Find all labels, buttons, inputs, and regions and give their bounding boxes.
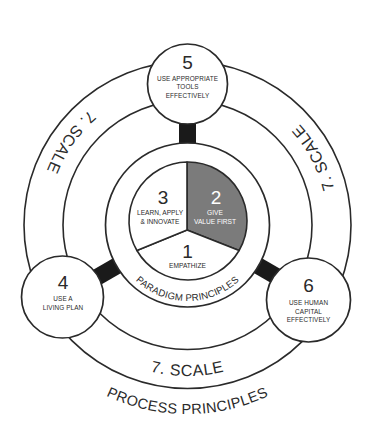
process-node-6[interactable]: 6 USE HUMAN CAPITAL EFFECTIVELY [267,258,351,342]
node-4-line-2: LIVING PLAN [43,304,84,311]
segment-1-number: 1 [182,241,193,262]
segment-2-line-2: VALUE FIRST [194,218,236,225]
node-5-line-2: TOOLS [176,83,198,90]
node-6-line-1: USE HUMAN [289,299,329,306]
scale-label-left-text: 7. SCALE [44,108,99,176]
node-4-line-1: USE A [53,295,73,302]
node-5-number: 5 [182,52,193,73]
scale-label-left: 7. SCALE [44,108,99,176]
segment-3-line-2: & INNOVATE [141,218,181,225]
diagram-svg: 7. SCALE 7. SCALE 7. SCALE PROCESS PRINC… [0,0,371,437]
segment-2-line-1: GIVE [207,209,223,216]
segment-3-line-1: LEARN, APPLY [137,209,184,216]
scale-label-bottom: 7. SCALE [150,358,226,379]
segment-2-number: 2 [211,187,222,208]
node-5-line-3: EFFECTIVELY [166,92,210,99]
principles-diagram: 7. SCALE 7. SCALE 7. SCALE PROCESS PRINC… [0,0,371,437]
process-node-4[interactable]: 4 USE A LIVING PLAN [22,256,104,338]
scale-label-right-text: 7. SCALE [289,121,338,192]
scale-label-right: 7. SCALE [289,121,338,192]
node-5-line-1: USE APPROPRIATE [157,75,218,82]
node-6-line-3: EFFECTIVELY [287,316,331,323]
node-4-number: 4 [58,272,69,293]
node-6-number: 6 [303,275,314,296]
segment-3-number: 3 [158,187,169,208]
node-6-line-2: CAPITAL [295,308,322,315]
process-node-5[interactable]: 5 USE APPROPRIATE TOOLS EFFECTIVELY [148,44,228,124]
scale-label-bottom-text: 7. SCALE [150,358,226,379]
segment-1-line-1: EMPATHIZE [169,262,206,269]
